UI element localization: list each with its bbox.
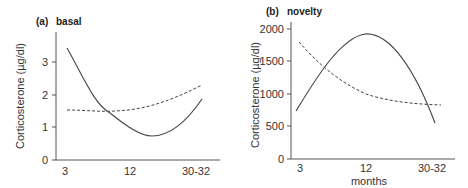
y-ticks: 0 500 1000 1500 2000 (260, 23, 291, 165)
series-dashed (67, 85, 202, 111)
y-tick-label: 1000 (260, 88, 284, 100)
panel-b-tag: (b) (266, 6, 279, 17)
x-tick-label: 12 (360, 162, 372, 174)
y-tick-label: 3 (42, 56, 48, 68)
x-ticks: 3 12 30-32 (297, 162, 446, 174)
x-tick-label: 12 (124, 165, 136, 177)
panel-b-title: novelty (287, 6, 322, 17)
series-solid (67, 48, 202, 136)
panel-a: (a) basal 0 1 2 3 3 12 30-32 Corticoster… (14, 16, 220, 177)
y-axis-title: Corticosterone (µg/dl) (249, 42, 261, 148)
y-tick-label: 2 (42, 89, 48, 101)
figure: (a) basal 0 1 2 3 3 12 30-32 Corticoster… (0, 0, 468, 188)
panel-a-tag: (a) (36, 16, 48, 27)
y-tick-label: 500 (266, 120, 284, 132)
panel-a-title: basal (56, 16, 82, 27)
y-axis-title: Corticosterone (µg/dl) (14, 43, 26, 149)
panel-b: (b) novelty 0 500 1000 1500 2000 3 12 30… (249, 6, 455, 187)
y-tick-label: 1 (42, 121, 48, 133)
series-solid (296, 34, 435, 123)
x-axis-title: months (351, 175, 388, 187)
x-tick-label: 3 (62, 165, 68, 177)
x-tick-label: 30-32 (418, 162, 446, 174)
x-tick-label: 3 (297, 162, 303, 174)
y-tick-label: 0 (42, 154, 48, 166)
y-ticks: 0 1 2 3 (42, 56, 56, 166)
x-tick-label: 30-32 (182, 165, 210, 177)
x-ticks: 3 12 30-32 (62, 165, 210, 177)
y-tick-label: 1500 (260, 55, 284, 67)
y-tick-label: 0 (278, 153, 284, 165)
y-tick-label: 2000 (260, 23, 284, 35)
